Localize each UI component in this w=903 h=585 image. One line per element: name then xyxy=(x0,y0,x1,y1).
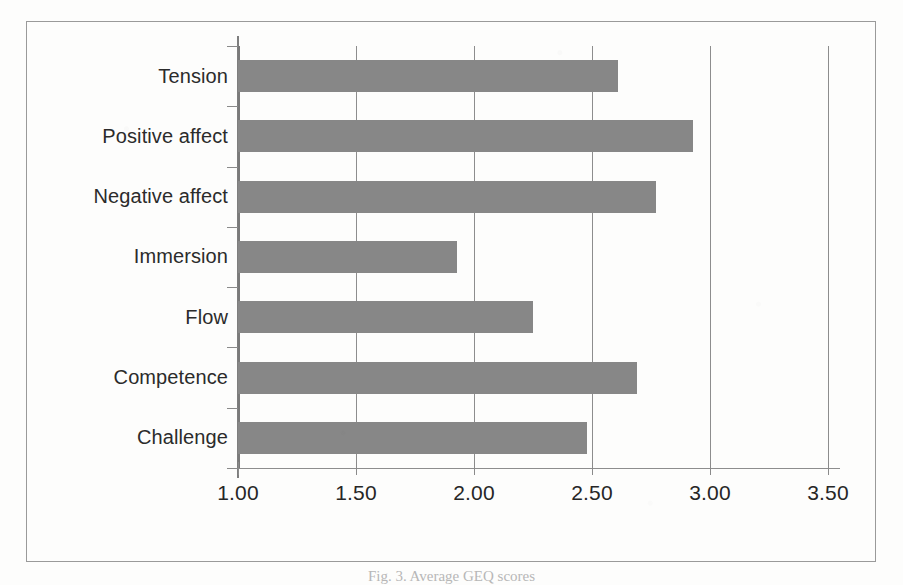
bar-competence[interactable] xyxy=(238,362,637,394)
y-label-wrap: Positive affect xyxy=(12,106,228,166)
x-axis-tick-labels: 1.001.502.002.503.003.50 xyxy=(0,481,903,515)
y-axis-label-challenge: Challenge xyxy=(137,426,228,449)
y-label-wrap: Competence xyxy=(12,347,228,407)
y-axis-category-labels: TensionPositive affectNegative affectImm… xyxy=(12,46,228,468)
bar-negative-affect[interactable] xyxy=(238,181,656,213)
y-axis-tick xyxy=(227,347,238,348)
bar-row xyxy=(238,408,828,468)
y-axis-tick xyxy=(227,167,238,168)
x-axis-label-2.50: 2.50 xyxy=(571,481,613,505)
figure-container: TensionPositive affectNegative affectImm… xyxy=(0,0,903,585)
y-axis-tick xyxy=(227,227,238,228)
y-label-wrap: Challenge xyxy=(12,408,228,468)
bar-row xyxy=(238,46,828,106)
bar-row xyxy=(238,287,828,347)
x-axis-label-1.50: 1.50 xyxy=(335,481,377,505)
y-axis-tick xyxy=(227,287,238,288)
y-axis-label-flow: Flow xyxy=(185,306,228,329)
y-axis-tick xyxy=(227,46,238,47)
bar-immersion[interactable] xyxy=(238,241,457,273)
y-label-wrap: Tension xyxy=(12,46,228,106)
x-axis-label-3.50: 3.50 xyxy=(807,481,849,505)
bar-challenge[interactable] xyxy=(238,422,587,454)
y-axis-label-competence: Competence xyxy=(114,366,228,389)
y-label-wrap: Flow xyxy=(12,287,228,347)
y-axis-label-negative-affect: Negative affect xyxy=(93,185,228,208)
bar-row xyxy=(238,347,828,407)
bar-row xyxy=(238,167,828,227)
x-axis-label-3.00: 3.00 xyxy=(689,481,731,505)
y-axis-label-tension: Tension xyxy=(158,65,228,88)
bar-tension[interactable] xyxy=(238,60,618,92)
bar-flow[interactable] xyxy=(238,301,533,333)
bar-positive-affect[interactable] xyxy=(238,120,693,152)
y-axis-label-positive-affect: Positive affect xyxy=(102,125,228,148)
y-axis-label-immersion: Immersion xyxy=(134,245,228,268)
bar-row xyxy=(238,227,828,287)
y-axis-tick xyxy=(227,106,238,107)
figure-caption: Fig. 3. Average GEQ scores xyxy=(0,568,903,585)
y-label-wrap: Immersion xyxy=(12,227,228,287)
y-axis-tick xyxy=(227,408,238,409)
y-label-wrap: Negative affect xyxy=(12,167,228,227)
x-axis-label-1.00: 1.00 xyxy=(217,481,259,505)
bar-row xyxy=(238,106,828,166)
y-axis-tick xyxy=(227,468,238,469)
plot-area xyxy=(238,46,828,468)
gridline-3.50 xyxy=(828,46,829,468)
x-axis-tick-3.50 xyxy=(828,462,829,475)
x-axis-line xyxy=(228,468,840,469)
x-axis-label-2.00: 2.00 xyxy=(453,481,495,505)
